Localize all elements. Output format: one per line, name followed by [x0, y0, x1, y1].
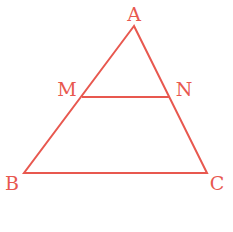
vertex-label-c: C — [210, 172, 225, 194]
vertex-label-a: A — [126, 3, 141, 25]
vertex-label-b: B — [5, 172, 19, 194]
point-label-m: M — [57, 78, 76, 100]
diagram-svg: A M N B C — [0, 0, 233, 232]
point-label-n: N — [176, 78, 193, 100]
triangle-diagram: A M N B C — [0, 0, 233, 232]
